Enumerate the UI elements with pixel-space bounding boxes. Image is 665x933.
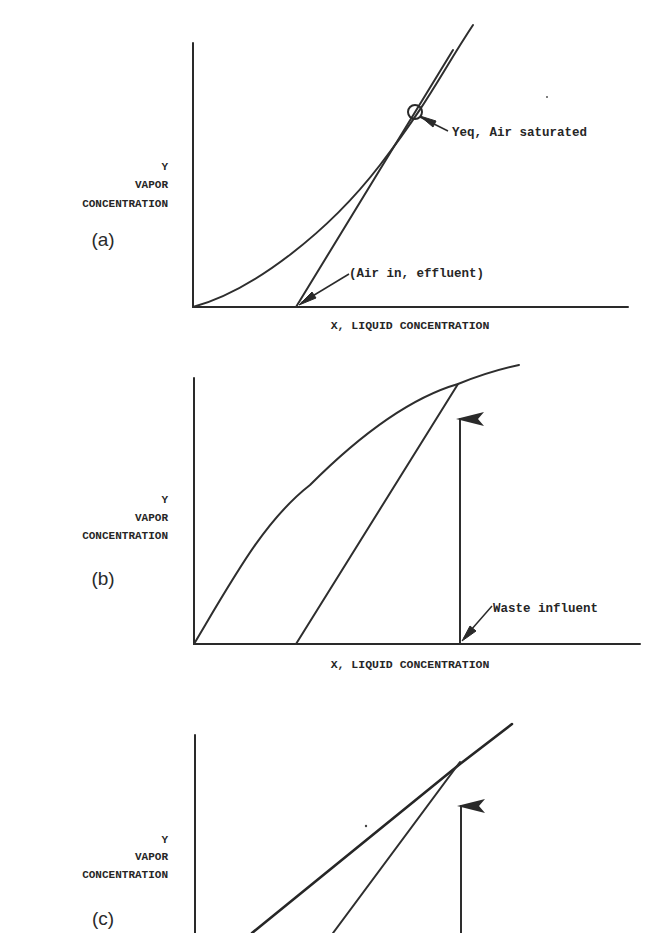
panel-b-label: (b): [91, 568, 114, 589]
panel-a-y-label-line1: Y: [161, 161, 168, 173]
panel-b-operating-line: [296, 384, 458, 644]
panel-b-y-label-line1: Y: [161, 494, 168, 506]
stripping-operating-line-figure: Yeq, Air saturated (Air in, effluent) Y …: [0, 0, 665, 933]
panel-a-label: (a): [91, 229, 114, 250]
panel-c-equilibrium-line: [252, 724, 512, 933]
panel-a-effluent-annotation: (Air in, effluent): [349, 267, 484, 281]
panel-b-y-label-line2: VAPOR: [135, 512, 168, 524]
panel-c-y-label-line2: VAPOR: [135, 851, 168, 863]
panel-a-yeq-annotation: Yeq, Air saturated: [452, 126, 587, 140]
panel-c-operating-line: [333, 762, 460, 933]
panel-b-x-label: X, LIQUID CONCENTRATION: [331, 658, 490, 671]
panel-a: Yeq, Air saturated (Air in, effluent) Y …: [82, 25, 628, 332]
panel-c-label: (c): [92, 908, 114, 929]
panel-c-y-label-line1: Y: [161, 834, 168, 846]
panel-b-y-label-line3: CONCENTRATION: [82, 530, 168, 542]
panel-b-influent-annotation: Waste influent: [493, 602, 598, 616]
panel-a-yeq-pointer: [420, 116, 448, 131]
panel-b-equilibrium-curve: [194, 365, 519, 644]
panel-c: Y VAPOR CONCENTRATION (c): [82, 724, 512, 933]
panel-c-speck: [365, 825, 367, 827]
panel-a-y-label-line3: CONCENTRATION: [82, 198, 168, 210]
panel-b-influent-pointer: [462, 606, 492, 641]
panel-a-y-label-line2: VAPOR: [135, 179, 168, 191]
panel-b: Waste influent Y VAPOR CONCENTRATION (b)…: [82, 365, 640, 671]
panel-a-speck: [546, 96, 548, 98]
panel-c-y-label-line3: CONCENTRATION: [82, 869, 168, 881]
panel-a-equilibrium-curve: [193, 25, 473, 307]
panel-a-x-label: X, LIQUID CONCENTRATION: [331, 319, 490, 332]
